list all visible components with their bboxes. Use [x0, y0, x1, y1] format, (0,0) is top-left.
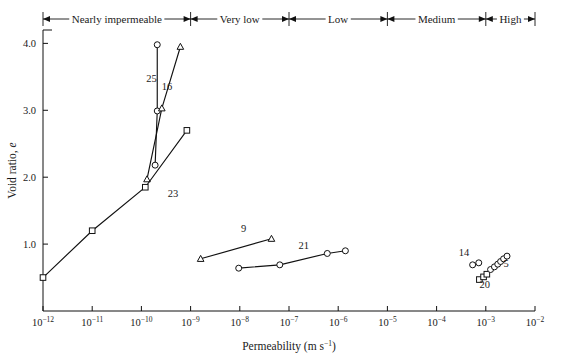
arrow-head-left: [43, 16, 50, 22]
marker-circle-3: [342, 248, 348, 254]
series-label-21: 21: [299, 240, 310, 251]
marker-circle-0: [154, 42, 160, 48]
series-label-23: 23: [168, 188, 179, 199]
marker-triangle-1: [268, 235, 275, 241]
arrow-head-left: [191, 16, 198, 22]
axes: 1.02.03.04.010−1210−1110−1010−910−810−71…: [23, 30, 545, 328]
y-tick-label-2: 3.0: [23, 105, 36, 116]
figure-root: Nearly impermeableVery lowLowMediumHigh1…: [0, 0, 579, 363]
series-16: 16: [144, 43, 184, 181]
series-line-16: [147, 47, 180, 179]
x-tick-label-2: 10−10: [130, 315, 152, 329]
arrow-head-right: [528, 16, 535, 22]
band-label-nearly-impermeable: Nearly impermeable: [72, 13, 162, 25]
series-9: 9: [197, 223, 274, 261]
series-5: 5: [488, 253, 510, 272]
series-label-16: 16: [162, 81, 173, 92]
marker-square-1: [89, 228, 95, 234]
series-line-23: [43, 130, 187, 277]
x-tick-label-8: 10−4: [427, 315, 446, 329]
permeability-classification-bar: Nearly impermeableVery lowLowMediumHigh: [43, 12, 535, 26]
series-line-25: [155, 45, 157, 165]
marker-circle-0: [236, 265, 242, 271]
marker-circle-1: [277, 262, 283, 268]
series-label-9: 9: [241, 223, 246, 234]
marker-triangle-0: [177, 43, 184, 49]
y-tick-label-0: 1.0: [23, 239, 36, 250]
y-tick-label-1: 2.0: [23, 172, 36, 183]
arrow-head-right: [380, 16, 387, 22]
series-20: 20: [477, 271, 490, 289]
series-23: 23: [40, 128, 189, 281]
marker-circle-2: [152, 162, 158, 168]
arrow-head-right: [282, 16, 289, 22]
marker-square-2: [142, 184, 148, 190]
series-14: 14: [459, 247, 482, 268]
marker-circle-0: [470, 262, 476, 268]
marker-square-3: [184, 128, 190, 134]
band-label-low: Low: [328, 13, 348, 25]
x-tick-label-3: 10−9: [181, 315, 200, 329]
arrow-head-right: [479, 16, 486, 22]
marker-circle-2: [324, 250, 330, 256]
arrow-head-left: [289, 16, 296, 22]
permeability-void-ratio-chart: Nearly impermeableVery lowLowMediumHigh1…: [0, 0, 579, 363]
x-tick-label-9: 10−3: [477, 315, 496, 329]
series-line-9: [201, 239, 272, 259]
x-tick-label-4: 10−8: [231, 315, 250, 329]
x-tick-label-10: 10−2: [526, 315, 545, 329]
marker-square-0: [40, 275, 46, 281]
marker-triangle-1: [159, 105, 166, 111]
x-axis-title: Permeability (m s−1): [242, 339, 336, 354]
series-label-5: 5: [504, 258, 509, 269]
x-tick-label-1: 10−11: [81, 315, 103, 329]
series-label-14: 14: [459, 247, 470, 258]
band-label-high: High: [499, 13, 522, 25]
data-layer: 25162392114205: [40, 42, 510, 290]
band-label-very-low: Very low: [220, 13, 260, 25]
y-axis-title: Void ratio, e: [6, 142, 19, 198]
series-label-25: 25: [146, 73, 157, 84]
arrow-head-left: [387, 16, 394, 22]
x-tick-label-6: 10−6: [329, 315, 348, 329]
arrow-head-left: [486, 16, 493, 22]
arrow-head-right: [184, 16, 191, 22]
x-tick-label-7: 10−5: [378, 315, 397, 329]
x-tick-label-0: 10−12: [32, 315, 54, 329]
y-tick-label-3: 4.0: [23, 38, 36, 49]
marker-circle-1: [476, 260, 482, 266]
series-label-20: 20: [479, 279, 490, 290]
x-tick-label-5: 10−7: [280, 315, 299, 329]
band-label-medium: Medium: [418, 13, 456, 25]
